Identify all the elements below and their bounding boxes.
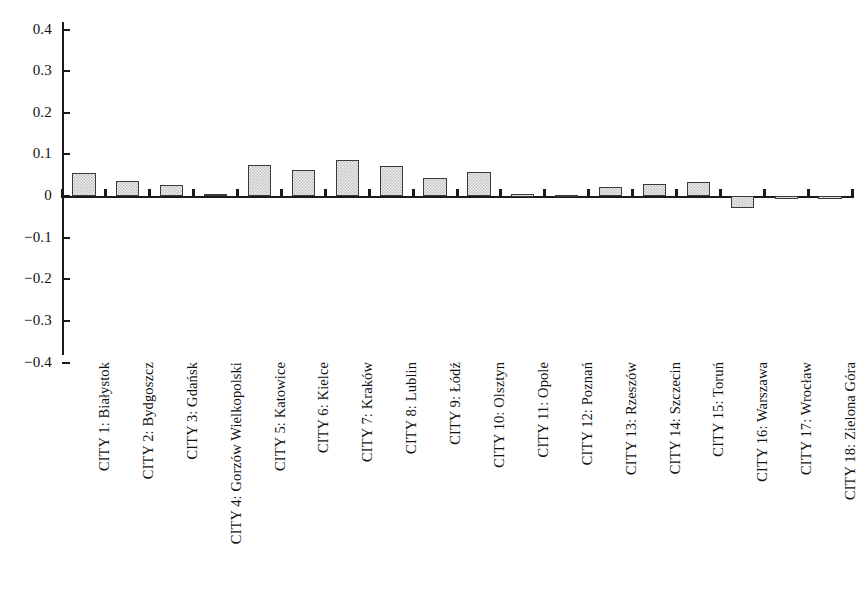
y-tick-mark: [62, 362, 70, 364]
x-axis-label: CITY 12: Poznań: [573, 362, 588, 465]
x-axis-label-text: CITY 9: Łódź: [448, 362, 463, 445]
bar: [555, 195, 578, 198]
x-tick-mark: [499, 189, 502, 198]
x-tick-mark: [631, 189, 634, 198]
x-tick-mark: [543, 189, 546, 198]
bar: [248, 165, 271, 196]
x-tick-mark: [763, 189, 766, 198]
x-axis-label: CITY 3: Gdańsk: [178, 362, 193, 460]
y-tick-mark: [62, 320, 70, 322]
x-axis-label: CITY 1: Białystok: [90, 362, 105, 471]
x-axis-label-text: CITY 12: Poznań: [580, 362, 595, 465]
x-axis-label: CITY 14: Szczecin: [661, 362, 676, 474]
x-tick-mark: [456, 189, 459, 198]
x-axis-label-text: CITY 13: Rzeszów: [624, 362, 639, 475]
x-tick-mark: [368, 189, 371, 198]
x-axis-label: CITY 8: Lublin: [397, 362, 412, 454]
x-tick-mark: [719, 189, 722, 198]
x-axis-label: CITY 10: Olsztyn: [485, 362, 500, 468]
y-tick-mark: [62, 112, 70, 114]
y-tick-label: −0.4: [8, 355, 52, 370]
x-tick-mark: [61, 189, 64, 198]
bar: [423, 178, 446, 196]
x-axis-label-text: CITY 14: Szczecin: [668, 362, 683, 474]
y-tick-mark: [62, 237, 70, 239]
x-axis-label-text: CITY 5: Katowice: [273, 362, 288, 471]
y-tick-label: 0: [8, 188, 52, 203]
bar: [292, 170, 315, 196]
x-axis-label-text: CITY 17: Wrocław: [799, 362, 814, 475]
bar: [643, 184, 666, 196]
y-tick-label: −0.3: [8, 313, 52, 328]
x-axis-label: CITY 18: Zielona Góra: [836, 362, 851, 500]
x-tick-mark: [104, 189, 107, 198]
x-axis-label-text: CITY 15: Toruń: [712, 362, 727, 457]
x-tick-mark: [236, 189, 239, 198]
bar: [731, 196, 754, 208]
x-axis-label: CITY 15: Toruń: [704, 362, 719, 457]
x-axis-label-text: CITY 16: Warszawa: [756, 362, 771, 482]
x-axis-label-text: CITY 2: Bydgoszcz: [141, 362, 156, 479]
x-axis-label-text: CITY 7: Kraków: [361, 362, 376, 462]
x-tick-mark: [675, 189, 678, 198]
bar: [72, 173, 95, 196]
x-tick-mark: [807, 189, 810, 198]
bar: [599, 187, 622, 196]
x-tick-mark: [587, 189, 590, 198]
bar: [160, 185, 183, 196]
x-axis-label: CITY 9: Łódź: [441, 362, 456, 445]
x-axis-label: CITY 16: Warszawa: [748, 362, 763, 482]
x-axis-label-text: CITY 6: Kielce: [317, 362, 332, 453]
bar: [775, 196, 798, 199]
x-axis-label: CITY 17: Wrocław: [792, 362, 807, 475]
x-axis-label: CITY 2: Bydgoszcz: [134, 362, 149, 479]
y-tick-label: −0.2: [8, 271, 52, 286]
y-tick-label: 0.1: [8, 146, 52, 161]
x-axis-label: CITY 5: Katowice: [266, 362, 281, 471]
x-axis-label-text: CITY 11: Opole: [536, 362, 551, 457]
bar: [818, 196, 841, 199]
x-axis-label-text: CITY 4: Gorzów Wielkopolski: [229, 362, 244, 544]
bar: [336, 160, 359, 196]
x-axis-label: CITY 4: Gorzów Wielkopolski: [222, 362, 237, 544]
x-axis-label-text: CITY 8: Lublin: [404, 362, 419, 454]
x-axis-label: CITY 11: Opole: [529, 362, 544, 457]
x-tick-mark: [148, 189, 151, 198]
x-axis-label-text: CITY 18: Zielona Góra: [843, 362, 858, 500]
x-axis-label: CITY 6: Kielce: [309, 362, 324, 453]
y-tick-label: −0.1: [8, 230, 52, 245]
x-axis-label-text: CITY 1: Białystok: [97, 362, 112, 471]
x-tick-mark: [412, 189, 415, 198]
y-tick-mark: [62, 29, 70, 31]
x-axis-label-text: CITY 3: Gdańsk: [185, 362, 200, 460]
x-tick-mark: [851, 189, 854, 198]
y-tick-mark: [62, 278, 70, 280]
bar: [380, 166, 403, 196]
y-tick-label: 0.2: [8, 105, 52, 120]
bar: [204, 194, 227, 197]
bar-chart-figure: 0.40.30.20.10−0.1−0.2−0.3−0.4 CITY 1: Bi…: [0, 0, 858, 611]
x-axis-label: CITY 7: Kraków: [353, 362, 368, 462]
y-tick-mark: [62, 153, 70, 155]
y-tick-label: 0.3: [8, 63, 52, 78]
bar: [511, 194, 534, 197]
bar: [467, 172, 490, 196]
x-tick-mark: [192, 189, 195, 198]
bar: [687, 182, 710, 196]
y-tick-mark: [62, 70, 70, 72]
bar: [116, 181, 139, 196]
x-tick-mark: [324, 189, 327, 198]
y-tick-label: 0.4: [8, 22, 52, 37]
x-axis-label: CITY 13: Rzeszów: [617, 362, 632, 475]
x-tick-mark: [280, 189, 283, 198]
x-axis-label-text: CITY 10: Olsztyn: [492, 362, 507, 468]
